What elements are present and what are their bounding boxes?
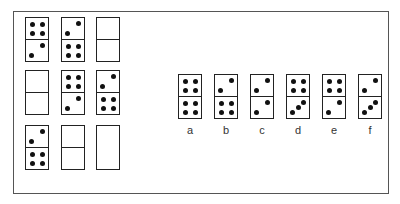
- pip-dot: [296, 105, 301, 110]
- pip-dot: [326, 110, 331, 115]
- domino-half-bottom: [62, 92, 84, 115]
- pip-dot: [229, 110, 234, 115]
- domino-half-top: [215, 75, 237, 97]
- pip-dot: [373, 100, 378, 105]
- domino-half-bottom: [26, 92, 48, 115]
- pip-dot: [101, 106, 106, 111]
- option-label-a: a: [178, 124, 202, 136]
- pip-dot: [193, 101, 198, 106]
- domino-half-top: [359, 75, 381, 97]
- option-label-c: c: [250, 124, 274, 136]
- pip-dot: [29, 53, 34, 58]
- pip-dot: [368, 105, 373, 110]
- pip-dot: [291, 88, 296, 93]
- domino-half-bottom: [251, 96, 273, 119]
- pip-dot: [219, 101, 224, 106]
- option-domino-c[interactable]: [250, 74, 274, 119]
- pip-dot: [76, 44, 81, 49]
- domino-half-bottom: [287, 96, 309, 119]
- pip-dot: [193, 110, 198, 115]
- pip-dot: [337, 88, 342, 93]
- pip-dot: [362, 110, 367, 115]
- domino-half-top: [97, 126, 119, 148]
- pip-dot: [29, 139, 34, 144]
- option-label-e: e: [322, 124, 346, 136]
- option-domino-f[interactable]: [358, 74, 382, 119]
- pip-dot: [76, 84, 81, 89]
- grid-domino-r1c1: [25, 17, 49, 62]
- pip-dot: [66, 84, 71, 89]
- domino-half-top: [62, 126, 84, 148]
- pip-dot: [301, 88, 306, 93]
- pip-dot: [66, 75, 71, 80]
- option-domino-b[interactable]: [214, 74, 238, 119]
- pip-dot: [30, 161, 35, 166]
- pip-dot: [265, 78, 270, 83]
- pip-dot: [218, 88, 223, 93]
- domino-half-top: [62, 18, 84, 40]
- pip-dot: [40, 152, 45, 157]
- domino-half-top: [97, 18, 119, 40]
- domino-half-bottom: [323, 96, 345, 119]
- pip-dot: [229, 101, 234, 106]
- pip-dot: [373, 78, 378, 83]
- pip-dot: [291, 79, 296, 84]
- pip-dot: [183, 88, 188, 93]
- pip-dot: [40, 161, 45, 166]
- pip-dot: [76, 53, 81, 58]
- pip-dot: [100, 84, 105, 89]
- domino-half-top: [287, 75, 309, 97]
- grid-domino-r1c2: [61, 17, 85, 62]
- domino-half-top: [323, 75, 345, 97]
- pip-dot: [101, 97, 106, 102]
- domino-half-bottom: [215, 96, 237, 119]
- pip-dot: [40, 129, 45, 134]
- domino-half-top: [62, 71, 84, 93]
- pip-dot: [254, 110, 259, 115]
- domino-half-bottom: [179, 96, 201, 119]
- pip-dot: [40, 31, 45, 36]
- domino-half-top: [26, 18, 48, 40]
- domino-half-top: [179, 75, 201, 97]
- option-domino-a[interactable]: [178, 74, 202, 119]
- pip-dot: [219, 110, 224, 115]
- option-label-f: f: [358, 124, 382, 136]
- pip-dot: [301, 79, 306, 84]
- pip-dot: [111, 97, 116, 102]
- pip-dot: [290, 110, 295, 115]
- domino-half-top: [251, 75, 273, 97]
- pip-dot: [111, 74, 116, 79]
- pip-dot: [193, 79, 198, 84]
- pip-dot: [183, 110, 188, 115]
- grid-domino-r1c3: [96, 17, 120, 62]
- grid-domino-r3c1: [25, 125, 49, 170]
- grid-domino-r2c2: [61, 70, 85, 115]
- domino-half-bottom: [359, 96, 381, 119]
- pip-dot: [183, 101, 188, 106]
- pip-dot: [40, 22, 45, 27]
- grid-domino-r3c3: [96, 125, 120, 170]
- pip-dot: [76, 75, 81, 80]
- domino-half-bottom: [26, 39, 48, 62]
- domino-half-top: [26, 126, 48, 148]
- domino-half-bottom: [62, 147, 84, 170]
- pip-dot: [65, 31, 70, 36]
- domino-half-bottom: [26, 147, 48, 170]
- pip-dot: [301, 100, 306, 105]
- pip-dot: [30, 22, 35, 27]
- domino-half-bottom: [97, 148, 119, 170]
- domino-half-bottom: [97, 92, 119, 115]
- pip-dot: [65, 106, 70, 111]
- grid-domino-r2c1: [25, 70, 49, 115]
- grid-domino-r3c2: [61, 125, 85, 170]
- grid-domino-r2c3: [96, 70, 120, 115]
- pip-dot: [265, 100, 270, 105]
- option-domino-e[interactable]: [322, 74, 346, 119]
- pip-dot: [254, 88, 259, 93]
- option-domino-d[interactable]: [286, 74, 310, 119]
- pip-dot: [362, 88, 367, 93]
- pip-dot: [76, 96, 81, 101]
- pip-dot: [337, 100, 342, 105]
- domino-half-bottom: [97, 39, 119, 62]
- pip-dot: [66, 53, 71, 58]
